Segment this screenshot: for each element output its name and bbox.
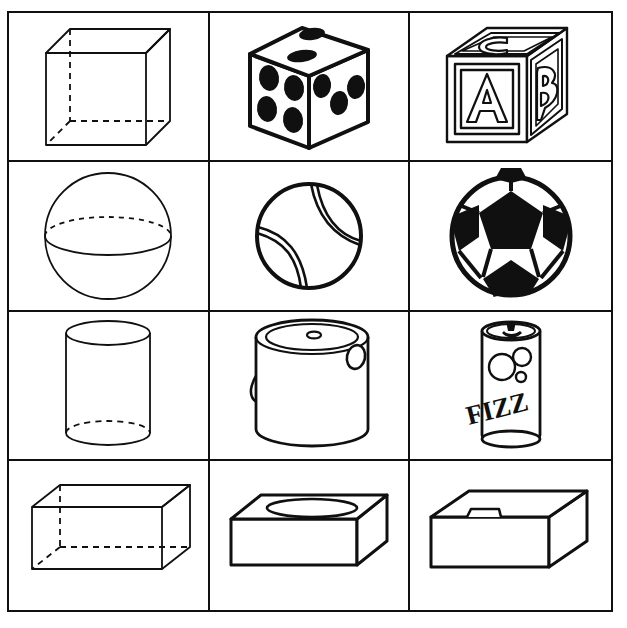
tennis-ball-figure	[234, 162, 384, 311]
cell-dice	[210, 13, 411, 162]
paint-can-figure	[228, 312, 390, 460]
soccer-ball-figure	[435, 162, 587, 311]
cell-soda-can: FIZZ	[410, 312, 611, 461]
tissue-box-figure	[219, 477, 399, 593]
gift-box-figure	[421, 477, 601, 593]
cube-wireframe-figure	[28, 17, 188, 157]
prism-wireframe-figure	[16, 475, 201, 595]
cell-tennis-ball	[210, 162, 411, 311]
cell-prism-wireframe	[9, 461, 210, 610]
cell-sphere-wireframe	[9, 162, 210, 311]
cell-alphabet-block	[410, 13, 611, 162]
cell-cylinder-wireframe	[9, 312, 210, 461]
solids-grid: FIZZ	[9, 13, 611, 610]
alphabet-block-figure	[431, 16, 591, 158]
cell-cube-wireframe	[9, 13, 210, 162]
cell-paint-can	[210, 312, 411, 461]
cell-soccer-ball	[410, 162, 611, 311]
sphere-wireframe-figure	[28, 162, 188, 311]
cell-gift-box	[410, 461, 611, 610]
dice-figure	[234, 16, 384, 158]
cell-tissue-box	[210, 461, 411, 610]
soda-can-figure: FIZZ	[446, 312, 576, 460]
worksheet-frame: FIZZ	[7, 11, 613, 612]
cylinder-wireframe-figure	[28, 312, 188, 460]
